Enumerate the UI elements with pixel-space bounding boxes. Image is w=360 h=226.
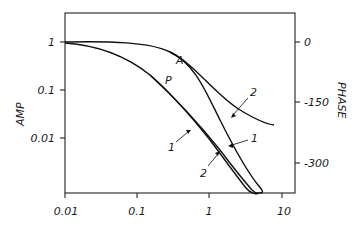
chart: 1 0.1 0.01 AMP 0 -150 -300 PHASE 0.01 0.…: [0, 0, 360, 226]
y-left-axis-label: AMP: [14, 102, 27, 127]
label-curve-2b: 2: [200, 167, 207, 180]
label-curve-1b: 1: [251, 132, 258, 145]
label-curve-2: 2: [250, 86, 257, 99]
y-right-tick-label: -300: [304, 157, 329, 170]
y-left-tick-label: 1: [48, 36, 55, 49]
label-A: A: [175, 54, 184, 67]
plot-frame: [65, 13, 295, 193]
y-right-tick-label: 0: [304, 36, 311, 49]
y-right-tick-label: -150: [304, 96, 329, 109]
phase-curve-1: [65, 43, 261, 193]
arrow-icon: [231, 113, 236, 118]
y-left-tick-label: 0.01: [31, 132, 56, 145]
y-left-tick-label: 0.1: [38, 84, 56, 97]
label-P: P: [165, 74, 172, 87]
leader-line: [208, 154, 218, 166]
x-tick-label: 0.01: [54, 205, 79, 218]
leader-line: [176, 132, 188, 142]
x-tick-label: 10: [277, 205, 291, 218]
x-tick-label: 1: [206, 205, 213, 218]
y-right-axis-label: PHASE: [335, 82, 348, 118]
amp-curve-1: [170, 52, 262, 193]
leader-line: [232, 140, 248, 145]
arrow-icon: [228, 143, 233, 148]
x-tick-label: 0.1: [128, 205, 146, 218]
label-curve-1: 1: [168, 141, 175, 154]
